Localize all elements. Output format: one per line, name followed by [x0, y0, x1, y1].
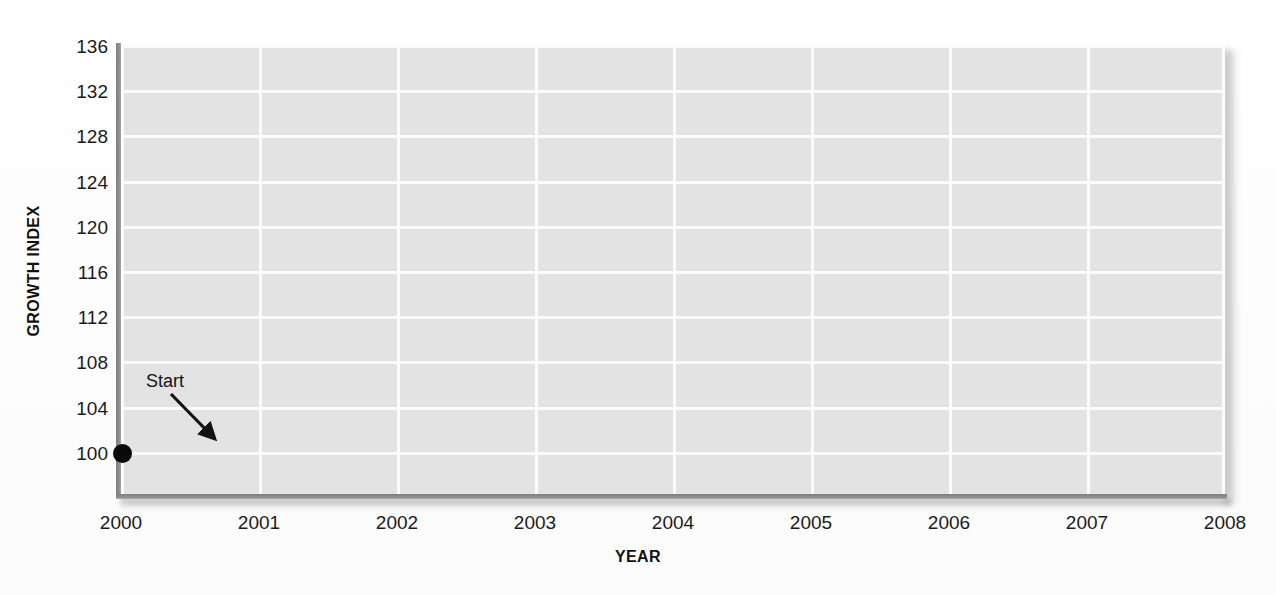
x-tick-label: 2006: [889, 512, 1009, 534]
chart-page: 136132128124120116112108104100 200020012…: [0, 0, 1276, 595]
x-tick-label: 2007: [1027, 512, 1147, 534]
gridline-vertical: [949, 45, 952, 497]
x-tick-label: 2002: [337, 512, 457, 534]
x-tick-label: 2003: [475, 512, 595, 534]
plot-right-shadow: [1225, 50, 1239, 505]
x-axis-title: YEAR: [0, 548, 1276, 566]
x-tick-label: 2004: [613, 512, 733, 534]
x-tick-label: 2001: [199, 512, 319, 534]
y-tick-label: 100: [48, 444, 108, 463]
gridline-vertical: [397, 45, 400, 497]
y-axis-title: GROWTH INDEX: [25, 191, 43, 351]
data-point-start[interactable]: [113, 444, 132, 463]
y-tick-label: 120: [48, 218, 108, 237]
start-annotation-arrow: [159, 385, 279, 465]
x-tick-label: 2000: [61, 512, 181, 534]
y-tick-labels: 136132128124120116112108104100: [48, 0, 108, 595]
y-tick-label: 108: [48, 353, 108, 372]
y-tick-label: 104: [48, 399, 108, 418]
y-tick-label: 128: [48, 127, 108, 146]
gridline-vertical: [1222, 45, 1225, 497]
x-axis-line: [116, 494, 1227, 499]
gridline-vertical: [535, 45, 538, 497]
gridline-vertical: [121, 45, 124, 497]
y-tick-label: 116: [48, 263, 108, 282]
y-tick-label: 112: [48, 308, 108, 327]
gridline-vertical: [673, 45, 676, 497]
y-tick-label: 132: [48, 82, 108, 101]
y-axis-line: [116, 43, 121, 499]
y-tick-label: 136: [48, 37, 108, 56]
x-axis-shadow: [120, 500, 1231, 509]
x-tick-label: 2008: [1165, 512, 1276, 534]
gridline-vertical: [811, 45, 814, 497]
y-tick-label: 124: [48, 173, 108, 192]
plot-area: [121, 45, 1225, 497]
x-tick-label: 2005: [751, 512, 871, 534]
gridline-vertical: [1087, 45, 1090, 497]
start-annotation-label: Start: [146, 371, 184, 392]
